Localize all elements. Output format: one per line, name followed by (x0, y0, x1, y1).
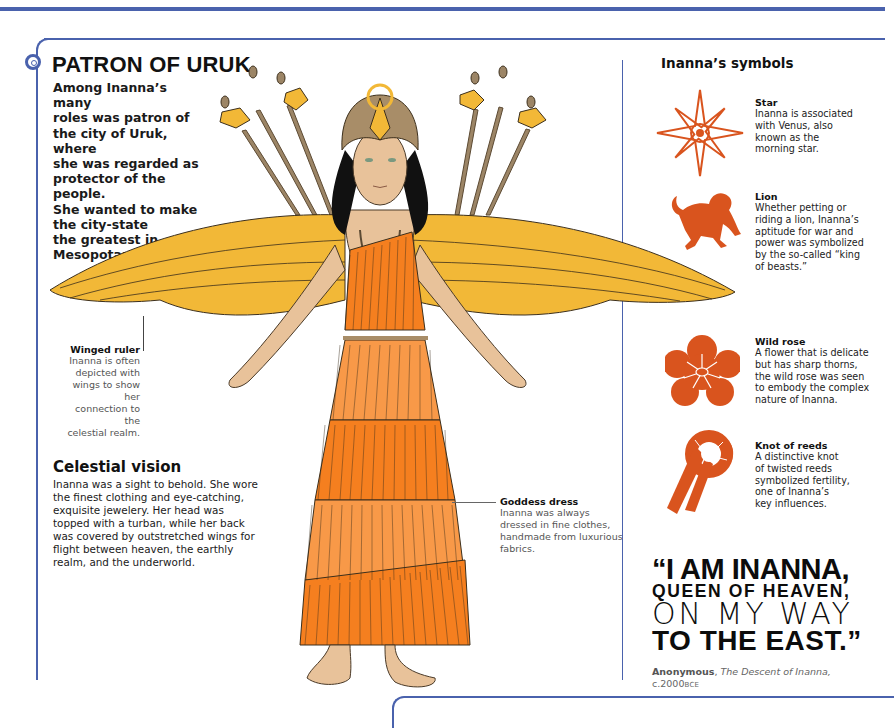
quote-author: Anonymous (652, 666, 714, 677)
section-bullet-icon (25, 54, 41, 70)
top-rule (0, 7, 885, 11)
celestial-vision-heading: Celestial vision (53, 458, 181, 476)
winged-ruler-body: Inanna is oftendepicted withwings to sho… (60, 355, 140, 439)
quote-line-3: ON MY WAY (652, 600, 885, 627)
inanna-illustration (40, 60, 740, 700)
goddess-dress-annotation: Goddess dress Inanna was alwaysdressed i… (500, 496, 625, 555)
quote-attribution: Anonymous, The Descent of Inanna, c.2000… (652, 666, 831, 691)
pull-quote: “I AM INANNA, QUEEN OF HEAVEN, ON MY WAY… (652, 555, 885, 655)
star-icon (655, 88, 745, 178)
goddess-dress-body: Inanna was alwaysdressed in fine clothes… (500, 507, 625, 555)
winged-ruler-title: Winged ruler (60, 344, 140, 355)
frame-top-rule (44, 38, 885, 40)
quote-line-1: “I AM INANNA, (652, 555, 885, 583)
symbols-heading: Inanna’s symbols (661, 55, 793, 71)
symbol-star: Star Inanna is associatedwith Venus, als… (755, 97, 880, 155)
winged-ruler-pointer (143, 316, 144, 351)
quote-date: c.2000 (652, 678, 684, 689)
goddess-dress-title: Goddess dress (500, 496, 625, 507)
quote-line-4: TO THE EAST.” (652, 627, 885, 655)
next-section-frame (392, 696, 894, 728)
symbol-wild-rose: Wild rose A flower that is delicatebut h… (755, 336, 880, 406)
symbol-knot-of-reeds: Knot of reeds A distinctive knotof twist… (755, 440, 880, 510)
lion-icon (665, 190, 745, 255)
frame-left-rule (36, 68, 38, 680)
goddess-dress-pointer (452, 502, 496, 503)
knot-of-reeds-icon (665, 430, 735, 515)
winged-ruler-annotation: Winged ruler Inanna is oftendepicted wit… (60, 344, 140, 439)
symbol-lion: Lion Whether petting orriding a lion, In… (755, 191, 880, 273)
quote-work: The Descent of Inanna, (721, 666, 831, 677)
wild-rose-icon (665, 334, 740, 406)
celestial-vision-text: Inanna was a sight to behold. She woreth… (53, 478, 313, 569)
